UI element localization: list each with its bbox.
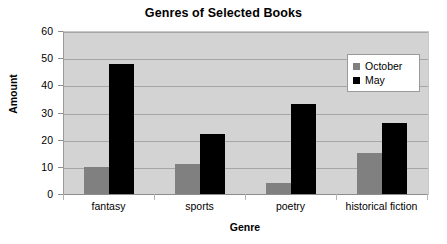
bar-chart: Genres of Selected Books 0102030405060 A… [0, 0, 447, 244]
y-tick-label-50: 50 [41, 53, 53, 63]
x-tick-label-poetry: poetry [245, 200, 336, 212]
x-tick-label-sports: sports [154, 200, 245, 212]
y-tick-mark-60 [58, 31, 63, 32]
x-tick-label-historical-fiction: historical fiction [336, 200, 427, 212]
bar-historical-fiction-october [357, 153, 382, 194]
y-tick-label-40: 40 [41, 80, 53, 90]
y-tick-label-0: 0 [47, 189, 53, 199]
y-tick-mark-30 [58, 113, 63, 114]
bar-sports-october [175, 164, 200, 194]
y-tick-mark-0 [58, 194, 63, 195]
y-tick-label-10: 10 [41, 162, 53, 172]
y-tick-mark-10 [58, 167, 63, 168]
october-swatch-icon [353, 63, 360, 70]
y-tick-mark-20 [58, 140, 63, 141]
bar-poetry-october [266, 183, 291, 194]
bar-sports-may [200, 134, 225, 194]
legend-label-october: October [365, 61, 402, 72]
legend: October May [347, 54, 420, 92]
x-tick-label-fantasy: fantasy [63, 200, 154, 212]
y-tick-mark-40 [58, 85, 63, 86]
bar-fantasy-october [84, 167, 109, 194]
legend-item-october: October [353, 59, 414, 73]
legend-item-may: May [353, 73, 414, 87]
bar-historical-fiction-may [382, 123, 407, 194]
y-axis-title: Amount [7, 59, 19, 129]
bar-poetry-may [291, 104, 316, 194]
y-tick-mark-50 [58, 58, 63, 59]
category-tick-4 [427, 194, 428, 200]
bar-fantasy-may [109, 64, 134, 194]
may-swatch-icon [353, 77, 360, 84]
y-tick-label-60: 60 [41, 26, 53, 36]
y-tick-label-30: 30 [41, 108, 53, 118]
x-axis: fantasysportspoetryhistorical fiction [63, 200, 427, 214]
y-tick-label-20: 20 [41, 135, 53, 145]
chart-title: Genres of Selected Books [0, 6, 447, 20]
x-axis-title: Genre [63, 221, 427, 233]
legend-label-may: May [365, 75, 385, 86]
